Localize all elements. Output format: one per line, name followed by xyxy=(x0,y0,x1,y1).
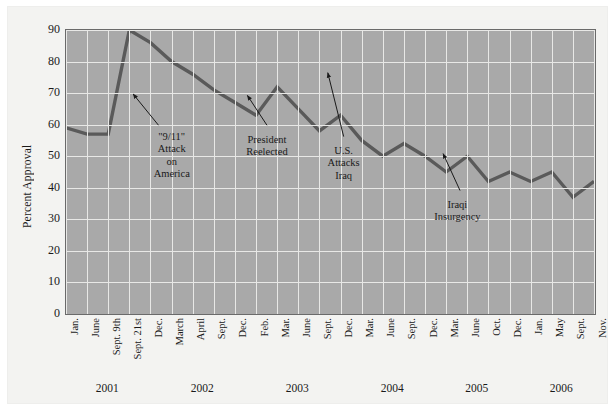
gridline-vertical xyxy=(362,30,363,314)
x-axis-year-groups: 200120022003200420052006 xyxy=(65,382,594,400)
x-tick-label: Jan. xyxy=(70,318,81,335)
x-axis-ticks: Jan.JuneSept. 9thSept. 21stDec.MarchApri… xyxy=(65,318,594,380)
x-tick-label: Mar. xyxy=(365,318,376,338)
y-tick-label: 60 xyxy=(8,118,60,130)
gridline-vertical xyxy=(108,30,109,314)
gridline-vertical xyxy=(256,30,257,314)
x-tick-label: Dec. xyxy=(344,318,355,338)
y-tick-label: 30 xyxy=(8,212,60,224)
annotation-us-attacks-iraq: U.S. Attacks Iraq xyxy=(328,145,360,182)
x-tick-label: June xyxy=(471,318,482,337)
y-tick-label: 90 xyxy=(8,23,60,35)
y-tick-label: 0 xyxy=(8,307,60,319)
x-tick-label: June xyxy=(386,318,397,337)
x-tick-label: Sept. 9th xyxy=(112,318,123,355)
gridline-vertical xyxy=(510,30,511,314)
y-tick-label: 80 xyxy=(8,55,60,67)
x-tick-label: Dec. xyxy=(238,318,249,338)
gridline-horizontal xyxy=(66,30,595,31)
x-tick-label: Dec. xyxy=(429,318,440,338)
gridline-vertical xyxy=(66,30,67,314)
gridline-vertical xyxy=(531,30,532,314)
gridline-horizontal xyxy=(66,188,595,189)
x-year-label: 2001 xyxy=(96,382,119,394)
gridline-vertical xyxy=(383,30,384,314)
x-tick-label: March xyxy=(175,318,186,345)
x-year-label: 2004 xyxy=(381,382,404,394)
y-tick-label: 20 xyxy=(8,244,60,256)
gridline-horizontal xyxy=(66,93,595,94)
gridline-vertical xyxy=(277,30,278,314)
x-tick-label: Dec. xyxy=(513,318,524,338)
gridline-vertical xyxy=(235,30,236,314)
x-tick-label: Dec. xyxy=(154,318,165,338)
x-tick-label: Sept. xyxy=(576,318,587,339)
gridline-horizontal xyxy=(66,282,595,283)
x-tick-label: Oct. xyxy=(492,318,503,336)
x-tick-label: Sept. 21st xyxy=(133,318,144,359)
x-tick-label: Feb. xyxy=(260,318,271,336)
x-tick-label: June xyxy=(302,318,313,337)
y-tick-label: 10 xyxy=(8,275,60,287)
gridline-vertical xyxy=(488,30,489,314)
y-tick-label: 40 xyxy=(8,181,60,193)
gridline-vertical xyxy=(319,30,320,314)
gridline-horizontal xyxy=(66,125,595,126)
gridline-horizontal xyxy=(66,219,595,220)
x-year-label: 2003 xyxy=(286,382,309,394)
gridline-vertical xyxy=(129,30,130,314)
chart-page: Percent Approval 0102030405060708090 Jan… xyxy=(0,0,616,412)
x-tick-label: Mar. xyxy=(281,318,292,338)
gridline-vertical xyxy=(87,30,88,314)
x-tick-label: May xyxy=(555,318,566,337)
y-tick-label: 70 xyxy=(8,86,60,98)
gridline-vertical xyxy=(404,30,405,314)
x-year-label: 2002 xyxy=(191,382,214,394)
annotation-nine-eleven: "9/11" Attack on America xyxy=(154,131,190,181)
gridline-vertical xyxy=(214,30,215,314)
gridline-vertical xyxy=(425,30,426,314)
annotation-president-reelected: President Reelected xyxy=(246,134,287,159)
x-tick-label: April xyxy=(196,318,207,340)
gridline-vertical xyxy=(298,30,299,314)
x-tick-label: Mar. xyxy=(450,318,461,338)
figure-card: Percent Approval 0102030405060708090 Jan… xyxy=(7,6,608,404)
gridline-vertical xyxy=(446,30,447,314)
x-tick-label: Sept. xyxy=(323,318,334,339)
gridline-vertical xyxy=(150,30,151,314)
gridline-vertical xyxy=(467,30,468,314)
x-tick-label: Jan. xyxy=(534,318,545,335)
annotation-iraqi-insurgency: Iraqi Insurgency xyxy=(434,199,480,224)
gridline-vertical xyxy=(573,30,574,314)
y-tick-label: 50 xyxy=(8,149,60,161)
x-year-label: 2006 xyxy=(550,382,573,394)
x-tick-label: Nov. xyxy=(598,318,609,338)
gridline-horizontal xyxy=(66,251,595,252)
x-tick-label: June xyxy=(91,318,102,337)
x-year-label: 2005 xyxy=(465,382,488,394)
gridline-vertical xyxy=(594,30,595,314)
gridline-vertical xyxy=(193,30,194,314)
gridline-horizontal xyxy=(66,62,595,63)
x-tick-label: Sept. xyxy=(407,318,418,339)
x-tick-label: Sept. xyxy=(217,318,228,339)
y-axis-ticks: 0102030405060708090 xyxy=(7,6,60,412)
gridline-vertical xyxy=(552,30,553,314)
